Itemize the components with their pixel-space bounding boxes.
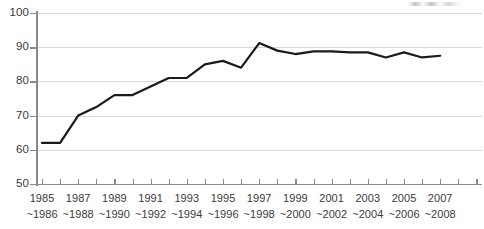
data-series-line	[42, 43, 440, 143]
series-svg	[0, 0, 484, 229]
line-chart: 100 90 80 70 60 50 1985 ~1986 1987 ~1988…	[0, 0, 484, 229]
